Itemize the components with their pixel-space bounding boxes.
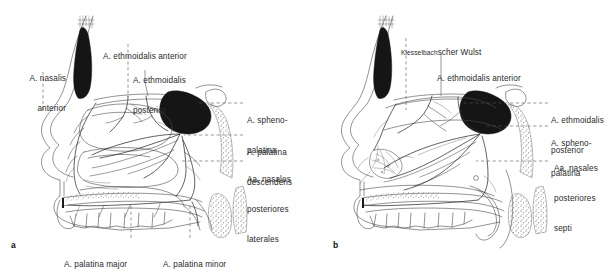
bone-texture-b xyxy=(508,104,547,238)
label-line: Aa. nasales xyxy=(247,175,291,185)
frontal-sinus-b xyxy=(374,27,392,98)
label-line: A. ethmoidalis xyxy=(133,76,186,86)
label-line: A. palatina minor xyxy=(163,260,226,270)
label-b-ethmoidalis-anterior: A. ethmoidalis anterior xyxy=(437,54,521,104)
alveolar-bone-a xyxy=(66,192,140,202)
nasal-bone-hatch-b xyxy=(378,16,394,28)
incisive-canal-b xyxy=(362,198,364,208)
label-line: Aa. nasales xyxy=(554,164,598,174)
label-line: A. palatina major xyxy=(64,260,127,270)
label-line: laterales xyxy=(247,235,291,245)
label-line: A. ethmoidalis anterior xyxy=(437,74,521,84)
kiesselbach-smallcaps: Kiesselbach xyxy=(401,49,438,56)
label-aa-nasales-posteriores-laterales: Aa. nasales posteriores laterales xyxy=(247,155,291,265)
label-line: A. spheno- xyxy=(247,116,288,126)
alveolar-bone-b xyxy=(366,192,440,202)
nasal-bone-hatch-a xyxy=(78,16,94,28)
label-a-ethmoidalis-posterior: A. ethmoidalis posterior xyxy=(133,56,186,136)
bone-texture-a xyxy=(208,104,247,238)
label-line: posteriores xyxy=(247,205,291,215)
label-line: septi xyxy=(554,224,598,234)
label-line: A. nasalis xyxy=(8,74,66,84)
label-a-palatina-major: A. palatina major xyxy=(64,240,127,273)
frontal-sinus-a xyxy=(74,27,92,98)
label-a-nasalis-anterior: A. nasalis anterior xyxy=(8,54,66,134)
label-line: anterior xyxy=(8,104,66,114)
label-a-palatina-minor: A. palatina minor xyxy=(163,240,226,273)
label-line: posteriores xyxy=(554,194,598,204)
kiesselbach-plexus xyxy=(358,146,414,184)
panel-label-b: b xyxy=(333,240,338,250)
label-aa-nasales-posteriores-septi: Aa. nasales posteriores septi xyxy=(554,144,598,254)
label-line: posterior xyxy=(133,106,186,116)
panel-label-a: a xyxy=(11,240,16,250)
incisive-canal-a xyxy=(62,198,64,208)
